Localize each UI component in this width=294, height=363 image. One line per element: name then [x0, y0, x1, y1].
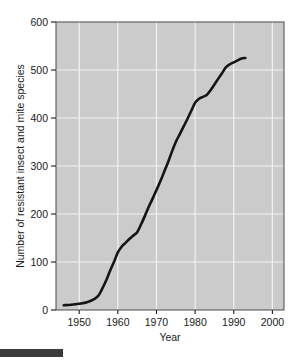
y-tick-label: 400 [30, 112, 48, 124]
y-axis-title: Number of resistant insect and mite spec… [14, 64, 26, 268]
y-tick-label: 300 [30, 160, 48, 172]
x-tick-label: 1980 [183, 316, 207, 328]
x-tick-label: 2000 [261, 316, 285, 328]
y-tick-label: 500 [30, 64, 48, 76]
x-axis-tick-labels: 195019601970198019902000 [68, 316, 285, 328]
y-tick-label: 100 [30, 256, 48, 268]
y-axis-ticks [51, 22, 56, 310]
y-axis-tick-labels: 0100200300400500600 [30, 16, 48, 316]
y-tick-label: 600 [30, 16, 48, 28]
y-tick-label: 0 [42, 304, 48, 316]
page-footer-bar [0, 349, 63, 357]
chart-figure: 195019601970198019902000 010020030040050… [0, 0, 294, 363]
x-tick-label: 1990 [222, 316, 246, 328]
x-axis-ticks [79, 310, 272, 314]
x-tick-label: 1960 [106, 316, 130, 328]
y-tick-label: 200 [30, 208, 48, 220]
x-axis-title: Year [159, 331, 181, 343]
resistant-species-line-chart: 195019601970198019902000 010020030040050… [0, 0, 294, 363]
x-tick-label: 1950 [68, 316, 92, 328]
x-tick-label: 1970 [145, 316, 169, 328]
